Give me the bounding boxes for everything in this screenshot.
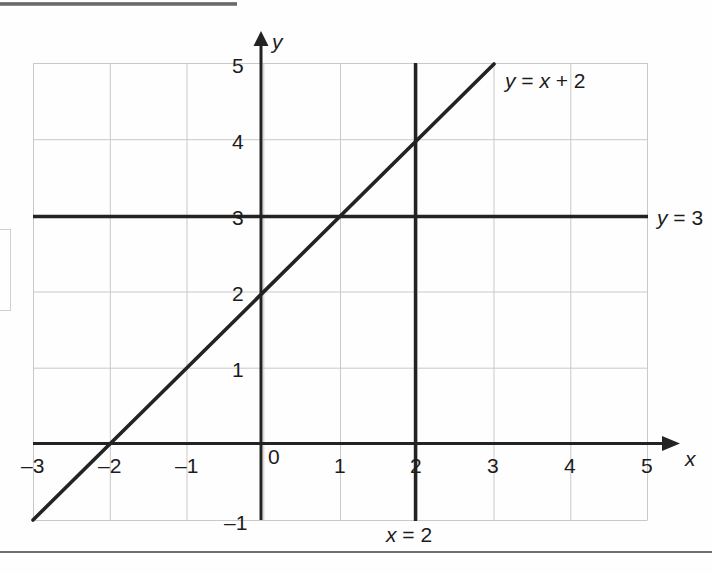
annotation-rest: + 2 [550,69,586,92]
y-axis [254,31,269,520]
annotation-y-equals-x-plus-2: y = x + 2 [505,70,586,91]
coordinate-plot: y x 5 4 3 2 1 –1 0 –3 –2 –1 1 2 3 4 5 y … [0,0,712,574]
origin-label: 0 [268,446,280,467]
y-tick-label-3: 3 [232,207,244,228]
y-tick-label-4: 4 [232,131,244,152]
y-tick-label-1: 1 [232,359,244,380]
x-tick-label-neg3: –3 [21,455,44,476]
annotation-lhs-y: y [505,69,516,92]
annotation-h-lhs-y: y [657,206,668,229]
x-tick-label-neg2: –2 [98,455,121,476]
x-tick-label-neg1: –1 [175,455,198,476]
y-tick-label-neg1: –1 [224,512,247,533]
y-tick-label-2: 2 [232,283,244,304]
annotation-var-x: x [539,69,550,92]
x-tick-label-2: 2 [410,455,422,476]
x-tick-label-1: 1 [334,455,346,476]
figure-page: y x 5 4 3 2 1 –1 0 –3 –2 –1 1 2 3 4 5 y … [0,0,712,574]
annotation-op: = [516,69,540,92]
x-tick-label-3: 3 [487,455,499,476]
plot-canvas [0,0,712,574]
bottom-scan-rule [0,551,712,553]
x-axis [33,436,680,451]
x-axis-label: x [685,448,696,469]
y-axis-label: y [272,31,283,52]
annotation-v-rest: = 2 [397,523,433,546]
x-tick-label-5: 5 [641,455,653,476]
annotation-h-rest: = 3 [668,206,704,229]
annotation-y-equals-3: y = 3 [657,207,703,228]
y-tick-label-5: 5 [232,55,244,76]
annotation-v-lhs-x: x [386,523,397,546]
annotation-x-equals-2: x = 2 [386,524,432,545]
x-tick-label-4: 4 [564,455,576,476]
